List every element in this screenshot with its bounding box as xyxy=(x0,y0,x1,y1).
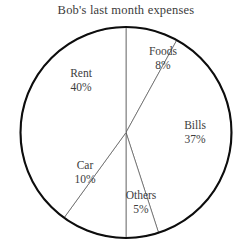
slice-label-bills: Bills 37% xyxy=(158,118,232,146)
slice-label-car-name: Car xyxy=(48,158,122,172)
slice-label-car-percent: 10% xyxy=(48,172,122,186)
slice-label-rent-percent: 40% xyxy=(44,80,118,94)
slice-label-others-percent: 5% xyxy=(104,202,178,216)
pie-chart-figure: Bob's last month expenses Foods 8% Bills… xyxy=(0,0,252,246)
slice-label-bills-percent: 37% xyxy=(158,132,232,146)
slice-label-others: Others 5% xyxy=(104,188,178,216)
slice-label-others-name: Others xyxy=(104,188,178,202)
slice-label-foods: Foods 8% xyxy=(126,44,200,72)
slice-label-foods-percent: 8% xyxy=(126,58,200,72)
slice-label-car: Car 10% xyxy=(48,158,122,186)
slice-label-rent-name: Rent xyxy=(44,66,118,80)
slice-label-bills-name: Bills xyxy=(158,118,232,132)
slice-label-rent: Rent 40% xyxy=(44,66,118,94)
slice-label-foods-name: Foods xyxy=(126,44,200,58)
